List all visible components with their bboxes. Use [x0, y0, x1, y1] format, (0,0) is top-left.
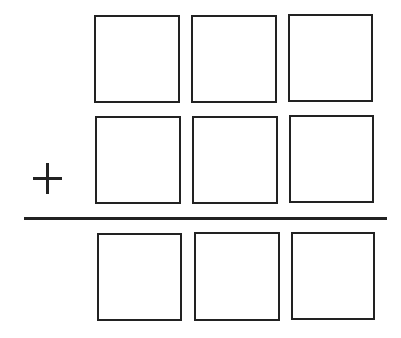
addend-1-hundreds-box[interactable] [94, 15, 180, 103]
addend-2-tens-box[interactable] [192, 116, 278, 204]
sum-divider-line [24, 217, 387, 220]
addend-2-hundreds-box[interactable] [95, 116, 181, 204]
addend-1-tens-box[interactable] [191, 15, 277, 103]
sum-ones-box[interactable] [291, 232, 375, 320]
sum-tens-box[interactable] [194, 232, 280, 321]
addend-1-ones-box[interactable] [288, 14, 373, 102]
sum-hundreds-box[interactable] [97, 233, 182, 321]
addend-2-ones-box[interactable] [289, 115, 374, 203]
